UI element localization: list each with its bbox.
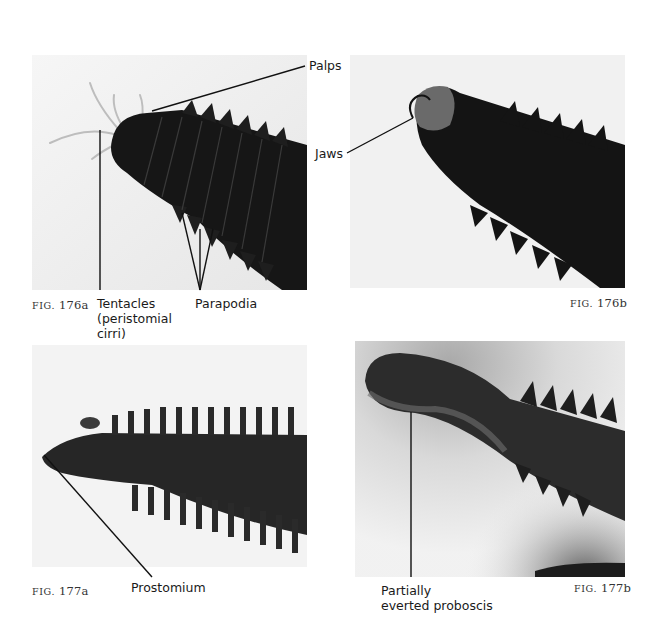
label-jaws: Jaws [315, 146, 343, 161]
caption-number: 177b [601, 581, 631, 595]
polychaete-everted-proboscis-image [355, 341, 625, 577]
caption-prefix: FIG. [574, 583, 597, 594]
caption-prefix: FIG. [32, 586, 55, 597]
caption-prefix: FIG. [570, 298, 593, 309]
label-prostomium: Prostomium [131, 580, 206, 595]
caption-fig-177a: FIG. 177a [32, 584, 88, 598]
caption-number: 176b [597, 296, 627, 310]
label-tentacles-line-1: Tentacles [97, 296, 155, 311]
label-palps: Palps [309, 58, 342, 73]
caption-fig-177b: FIG. 177b [574, 581, 631, 595]
caption-number: 176a [59, 298, 89, 312]
polychaete-jaws-image [350, 55, 625, 288]
caption-number: 177a [59, 584, 89, 598]
photo-fig-177b [355, 341, 625, 577]
caption-fig-176b: FIG. 176b [570, 296, 627, 310]
photo-fig-176b [350, 55, 625, 288]
label-tentacles-line-2: (peristomial [97, 311, 172, 326]
caption-fig-176a: FIG. 176a [32, 298, 88, 312]
label-parapodia: Parapodia [195, 296, 257, 311]
label-proboscis-line-2: everted proboscis [381, 598, 493, 613]
label-proboscis-line-1: Partially [381, 583, 431, 598]
label-tentacles-line-3: cirri) [97, 326, 126, 341]
caption-prefix: FIG. [32, 300, 55, 311]
photo-fig-177a [32, 345, 307, 567]
photo-fig-176a [32, 55, 307, 290]
polychaete-ventral-prostomium-image [32, 345, 307, 567]
polychaete-dorsal-head-image [32, 55, 307, 290]
